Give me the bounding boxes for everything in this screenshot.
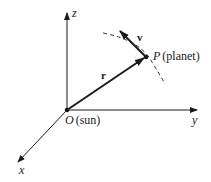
origin-symbol: O [65, 113, 74, 127]
x-axis-label: x [18, 163, 25, 177]
z-axis-label: z [71, 6, 77, 20]
origin-point-sun [65, 108, 70, 113]
planet-description: (planet) [162, 49, 199, 63]
position-vector-label: r [101, 69, 106, 81]
origin-label: O(sun) [65, 113, 100, 127]
planet-label: P(planet) [152, 49, 200, 63]
sun-planet-vector-diagram: z y x r v O(sun) P(planet) [0, 0, 211, 182]
x-axis [18, 110, 67, 162]
velocity-vector-label: v [137, 31, 143, 43]
origin-description: (sun) [76, 113, 101, 127]
position-vector-r [67, 58, 144, 110]
y-axis-label: y [191, 113, 198, 127]
planet-symbol: P [152, 49, 161, 63]
planet-point [144, 55, 149, 60]
